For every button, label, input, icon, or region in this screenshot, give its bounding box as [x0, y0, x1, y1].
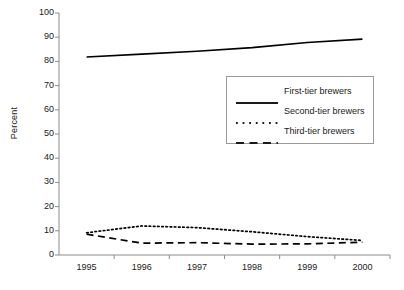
- y-axis-tick-label: 70: [28, 81, 54, 90]
- legend-swatch-dashed-line: [236, 130, 278, 132]
- chart-legend: First-tier brewers Second-tier brewers T…: [226, 76, 374, 144]
- x-axis-tick-label: 1997: [177, 263, 217, 272]
- chart-container: Percent 0102030405060708090100 199519961…: [0, 0, 404, 290]
- series-line-third-tier: [87, 234, 363, 244]
- legend-item-third-tier: Third-tier brewers: [227, 123, 373, 139]
- legend-swatch-solid-line: [236, 90, 278, 92]
- y-axis-title: Percent: [9, 88, 19, 158]
- y-axis-tick-label: 10: [28, 226, 54, 235]
- y-axis-tick-label: 50: [28, 129, 54, 138]
- legend-label-third-tier: Third-tier brewers: [284, 124, 355, 138]
- y-axis-tick-label: 90: [28, 32, 54, 41]
- y-axis-tick-label: 0: [28, 250, 54, 259]
- x-axis-tick-label: 1999: [287, 263, 327, 272]
- chart-plot-svg: [0, 0, 404, 290]
- x-axis-ticks: [114, 255, 390, 259]
- x-axis-tick-label: 2000: [342, 263, 382, 272]
- series-line-first-tier: [87, 39, 363, 57]
- x-axis-tick-label: 1995: [67, 263, 107, 272]
- legend-swatch-dotted-line: [236, 110, 278, 112]
- y-axis-tick-label: 40: [28, 153, 54, 162]
- x-axis-tick-label: 1998: [232, 263, 272, 272]
- legend-item-first-tier: First-tier brewers: [227, 83, 373, 99]
- y-axis-tick-label: 30: [28, 177, 54, 186]
- y-axis-tick-label: 60: [28, 105, 54, 114]
- legend-item-second-tier: Second-tier brewers: [227, 103, 373, 119]
- series-line-second-tier: [87, 226, 363, 241]
- y-axis-ticks: [55, 13, 59, 255]
- legend-label-second-tier: Second-tier brewers: [284, 104, 365, 118]
- x-axis-tick-label: 1996: [122, 263, 162, 272]
- y-axis-tick-label: 100: [28, 8, 54, 17]
- y-axis-tick-label: 80: [28, 56, 54, 65]
- legend-label-first-tier: First-tier brewers: [284, 84, 352, 98]
- y-axis-tick-label: 20: [28, 202, 54, 211]
- y-axis-tick-labels: 0102030405060708090100: [26, 0, 54, 242]
